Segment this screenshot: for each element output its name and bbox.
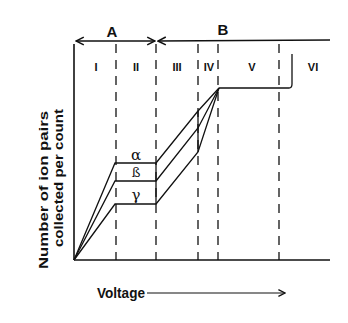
alpha-curve [74,88,219,260]
region-label-i: I [94,61,97,73]
region-label-iv: IV [204,61,215,73]
ionization-regions-diagram: A B I II III IV V VI α ß γ Number of ion… [0,0,348,323]
gamma-label: γ [132,186,141,204]
region-label-v: V [248,61,256,73]
y-axis-label-line1: Number of ion pairs [36,111,51,269]
group-label-a: A [107,23,118,40]
region-label-vi: VI [308,61,318,73]
y-axis-label-line2: collected per count [51,108,66,247]
region-label-ii: II [133,61,139,73]
group-label-b: B [218,21,229,38]
region-label-iii: III [172,61,181,73]
beta-label: ß [132,165,141,180]
alpha-label: α [131,146,141,164]
region-b-bracket [158,40,330,41]
beta-curve [74,88,219,260]
gamma-curve [74,88,219,260]
x-axis-label: Voltage [97,284,145,301]
